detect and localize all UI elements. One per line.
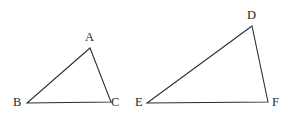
vertex-label-a: A (85, 31, 94, 44)
vertex-label-e: E (135, 96, 143, 109)
triangle-def-shape (147, 26, 268, 103)
vertex-label-c: C (111, 96, 119, 109)
geometry-figure: A B C D E F (0, 0, 293, 120)
vertex-label-f: F (272, 96, 279, 109)
vertex-label-d: D (247, 9, 256, 22)
vertex-label-b: B (13, 96, 21, 109)
triangle-abc-shape (27, 48, 111, 103)
